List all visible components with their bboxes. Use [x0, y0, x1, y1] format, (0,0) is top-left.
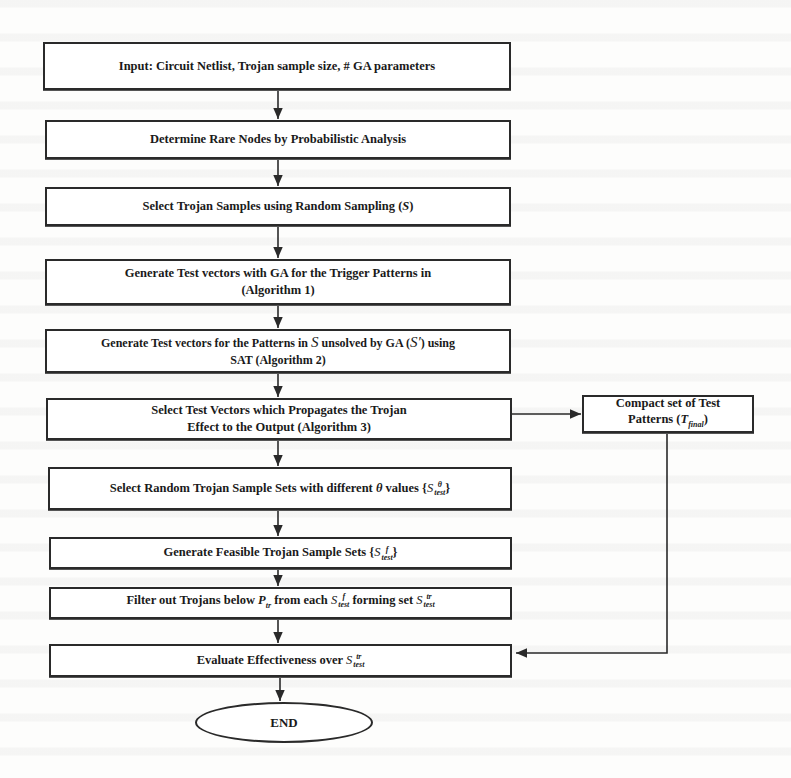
- step-select-samples-text: Select Trojan Samples using Random Sampl…: [143, 199, 403, 213]
- step-ga-line1: Generate Test vectors with GA for the Tr…: [125, 265, 431, 282]
- side-compact-set-box: Compact set of Test Patterns (Tfinal): [582, 395, 754, 433]
- step-propagate-line2: Effect to the Output (Algorithm 3): [187, 419, 371, 436]
- math-s: S: [374, 545, 380, 559]
- step-evaluate-text: Evaluate Effectiveness over: [197, 653, 346, 667]
- step-random-sets-text-b: values {: [382, 481, 427, 495]
- step-sat-vectors-box: Generate Test vectors for the Patterns i…: [45, 329, 511, 373]
- math-subscript: test: [424, 601, 435, 609]
- math-s: S: [331, 593, 337, 607]
- math-subscript: test: [338, 601, 349, 609]
- math-t-subscript: final: [688, 420, 704, 429]
- step-ga-vectors-box: Generate Test vectors with GA for the Tr…: [45, 259, 511, 305]
- step-filter-text-a: Filter out Trojans below: [126, 593, 258, 607]
- close-brace: }: [445, 481, 450, 495]
- step-evaluate-box: Evaluate Effectiveness over Strtest: [49, 644, 512, 677]
- math-subscript: test: [434, 489, 445, 497]
- end-label: END: [270, 715, 297, 731]
- step-sat-text-a: Generate Test vectors for the Patterns i…: [101, 336, 311, 350]
- step-select-samples-box: Select Trojan Samples using Random Sampl…: [45, 187, 511, 226]
- step-filter-text-b: from each: [271, 593, 331, 607]
- step-ga-line2: (Algorithm 1): [241, 282, 314, 299]
- step-sat-text-b: unsolved by GA (: [319, 336, 410, 350]
- math-s: S: [311, 334, 319, 350]
- close-brace: }: [393, 545, 398, 559]
- step-filter-box: Filter out Trojans below Ptr from each S…: [49, 587, 512, 619]
- step-input-text: Input: Circuit Netlist, Trojan sample si…: [119, 58, 435, 75]
- step-sat-line2: SAT (Algorithm 2): [230, 352, 326, 369]
- end-terminal: END: [195, 702, 373, 743]
- math-subscript: test: [353, 661, 364, 669]
- math-s: S: [346, 653, 352, 667]
- side-box-line2-text: Patterns (: [628, 412, 680, 426]
- step-feasible-text: Generate Feasible Trojan Sample Sets {: [163, 545, 374, 559]
- close-paren: ): [704, 412, 708, 426]
- step-propagate-box: Select Test Vectors which Propagates the…: [46, 398, 512, 440]
- math-p: P: [258, 593, 266, 607]
- math-s: S: [416, 593, 422, 607]
- math-s: S: [427, 481, 433, 495]
- step-rare-nodes-box: Determine Rare Nodes by Probabilistic An…: [45, 120, 511, 159]
- math-s-prime: S′: [410, 334, 421, 350]
- math-subscript: test: [382, 554, 393, 562]
- close-paren: ): [409, 199, 413, 213]
- math-t: T: [681, 412, 689, 426]
- step-sat-text-c: ) using: [421, 336, 455, 350]
- step-input-box: Input: Circuit Netlist, Trojan sample si…: [43, 42, 511, 90]
- step-propagate-line1: Select Test Vectors which Propagates the…: [151, 402, 406, 419]
- side-box-line1: Compact set of Test: [616, 395, 721, 411]
- step-feasible-sets-box: Generate Feasible Trojan Sample Sets {Sf…: [49, 537, 512, 569]
- step-random-sets-box: Select Random Trojan Sample Sets with di…: [48, 467, 512, 510]
- step-filter-text-c: forming set: [349, 593, 416, 607]
- step-random-sets-text: Select Random Trojan Sample Sets with di…: [110, 481, 376, 495]
- step-rare-nodes-text: Determine Rare Nodes by Probabilistic An…: [150, 131, 406, 148]
